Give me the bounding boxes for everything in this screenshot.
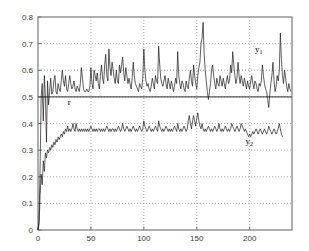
- y-tick-label-5: 0.5: [22, 93, 34, 102]
- x-tick-label-4: 200: [243, 234, 257, 243]
- y-tick-label-7: 0.7: [22, 40, 34, 49]
- x-tick-label-3: 150: [190, 234, 204, 243]
- time-series-chart: 00.10.20.30.40.50.60.70.8050100150200ry1…: [0, 0, 309, 251]
- label-y2-subscript: 2: [250, 141, 253, 147]
- x-tick-label-2: 100: [137, 234, 151, 243]
- y-tick-label-2: 0.2: [22, 173, 34, 182]
- y-tick-label-3: 0.3: [22, 146, 34, 155]
- y-tick-label-8: 0.8: [22, 13, 34, 22]
- x-tick-label-0: 0: [36, 234, 41, 243]
- x-tick-label-1: 50: [86, 234, 95, 243]
- chart-plot-area: 00.10.20.30.40.50.60.70.8050100150200ry1…: [0, 0, 309, 251]
- label-y1-subscript: 1: [259, 49, 262, 55]
- y-tick-label-0: 0: [29, 226, 34, 235]
- y-tick-label-4: 0.4: [22, 120, 34, 129]
- y-tick-label-1: 0.1: [22, 199, 34, 208]
- label-r: r: [68, 97, 71, 107]
- y-tick-label-6: 0.6: [22, 66, 34, 75]
- figure-container: 00.10.20.30.40.50.60.70.8050100150200ry1…: [0, 0, 309, 251]
